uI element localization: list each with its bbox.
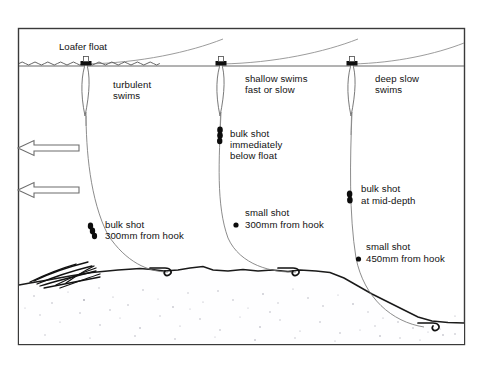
rig-right-swim-label-line1: deep slow bbox=[375, 73, 419, 84]
split-shot-icon-middle-small bbox=[233, 222, 238, 227]
rig-middle-small-label-line1: small shot bbox=[245, 207, 289, 218]
diagram-canvas: bulk shot 300mm from hook turbulent swim… bbox=[0, 0, 481, 370]
rig-middle-bulk-label-line1: bulk shot bbox=[230, 128, 270, 139]
rig-right-swim-label-line2: swims bbox=[375, 84, 402, 95]
rig-left-bulk-label-line1: bulk shot bbox=[105, 219, 145, 230]
rig-middle-small-label-line2: 300mm from hook bbox=[245, 219, 324, 230]
rig-middle-bulk-label-line2: immediately bbox=[230, 139, 282, 150]
rig-right-bulk-label-line2: at mid-depth bbox=[361, 195, 416, 206]
rig-left-bulk-label-line2: 300mm from hook bbox=[105, 230, 184, 241]
fishing-rig-diagram: bulk shot 300mm from hook turbulent swim… bbox=[0, 0, 481, 370]
rig-left-swim-label-line2: swims bbox=[113, 90, 140, 101]
rig-right-bulk-label-line1: bulk shot bbox=[361, 183, 401, 194]
rig-right-small-label-line1: small shot bbox=[366, 241, 410, 252]
rig-middle-bulk-label-line3: below float bbox=[230, 150, 277, 161]
split-shot-icon-middle-bulk bbox=[217, 127, 223, 145]
split-shot-icon-right-small bbox=[356, 256, 361, 261]
rig-middle-swim-label-line1: shallow swims bbox=[245, 73, 308, 84]
loafer-float-label: Loafer float bbox=[59, 41, 107, 52]
rig-middle-swim-label-line2: fast or slow bbox=[245, 84, 295, 95]
rig-right-small-label-line2: 450mm from hook bbox=[366, 253, 445, 264]
rig-left-swim-label-line1: turbulent bbox=[113, 79, 151, 90]
